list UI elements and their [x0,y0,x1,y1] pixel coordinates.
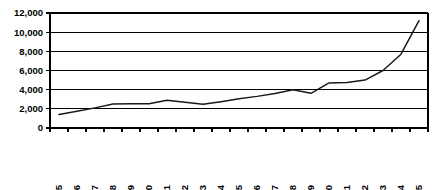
x-tick-label: 2000 [323,185,334,190]
x-tick-label: 1995 [233,184,244,190]
x-tick-label: 1992 [179,185,190,190]
y-tick-label: 10,000 [14,27,43,38]
y-tick-label: 8,000 [19,46,43,57]
x-tick-label: 1994 [215,184,226,190]
x-axis-tick-labels: 1985198619871988198919901991199219931994… [53,184,424,190]
x-tick-label: 2004 [395,184,406,190]
x-tick-label: 1997 [269,185,280,190]
x-tick-label: 1986 [71,185,82,190]
y-tick-label: 2,000 [19,103,43,114]
x-tick-label: 1998 [287,185,298,190]
x-tick-label: 1987 [89,185,100,190]
x-tick-label: 1985 [53,184,64,190]
x-tick-label: 1996 [251,185,262,190]
y-tick-label: 6,000 [19,65,43,76]
y-tick-label: 4,000 [19,84,43,95]
x-tick-label: 1990 [143,185,154,190]
x-tick-label: 2005 [413,184,424,190]
y-tick-label: 12,000 [14,7,43,18]
x-tick-label: 1999 [305,185,316,190]
y-axis-tick-labels: 12,00010,0008,0006,0004,0002,0000 [14,7,43,133]
x-tick-label: 1988 [107,185,118,190]
x-tick-label: 2001 [341,184,352,190]
chart-container: 12,00010,0008,0006,0004,0002,0000 198519… [0,0,446,190]
x-tick-label: 2002 [359,185,370,190]
x-tick-label: 1989 [125,185,136,190]
line-chart: 12,00010,0008,0006,0004,0002,0000 198519… [0,0,446,190]
y-tick-label: 0 [38,122,43,133]
x-tick-label: 1993 [197,185,208,190]
x-tick-label: 1991 [161,184,172,190]
x-tick-label: 2003 [377,185,388,190]
